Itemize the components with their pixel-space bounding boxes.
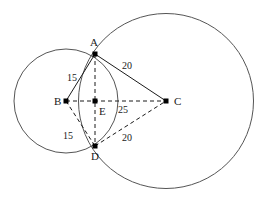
segments-group (66, 54, 166, 146)
point-label-b: B (54, 95, 61, 107)
length-label-ba: 15 (67, 72, 77, 83)
geometry-canvas: A B C D E 15 20 25 15 20 (0, 0, 265, 202)
geometry-diagram: A B C D E 15 20 25 15 20 (0, 0, 265, 202)
length-label-dc: 20 (122, 132, 132, 143)
length-label-bd: 15 (63, 130, 73, 141)
point-label-a: A (90, 36, 98, 48)
circles-group (14, 14, 254, 189)
vertex-dots-group (64, 52, 169, 149)
vertex-dot-d (93, 144, 98, 149)
point-label-c: C (174, 95, 181, 107)
vertex-dot-c (164, 99, 169, 104)
vertex-dot-a (93, 52, 98, 57)
point-label-d: D (91, 150, 99, 162)
vertex-dot-e (93, 99, 98, 104)
point-label-e: E (99, 105, 106, 117)
vertex-dot-b (64, 99, 69, 104)
length-label-bc: 25 (118, 104, 128, 115)
length-label-ac: 20 (122, 60, 132, 71)
